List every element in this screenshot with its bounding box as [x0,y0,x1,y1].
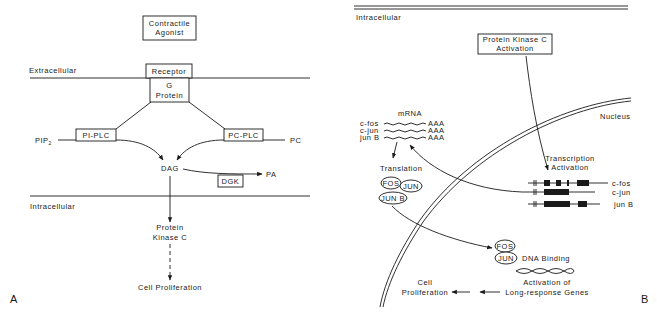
gene-jun-b: jun B [528,200,634,209]
transcription-line2: Activation [551,163,589,172]
transcription-line1: Transcription [545,154,595,163]
agonist-line2: Agonist [155,28,184,37]
mrna-title: mRNA [398,109,422,118]
g-protein-box: G Protein [150,78,189,102]
pkc-line2: Kinase C [153,233,188,242]
mrna-item: jun B AAA [359,133,445,142]
dag-to-pa-arrow [183,169,262,174]
mrna-wave [384,137,426,139]
svg-text:FOS: FOS [383,179,400,188]
agonist-line1: Contractile [149,19,190,28]
intracellular-label-b: Intracellular [356,13,401,22]
protein-jun: JUN [400,180,422,192]
g-protein-line2: Protein [156,91,183,100]
translation-label: Translation [380,164,422,173]
cell-line2: Proliferation [402,288,449,297]
dag-label: DAG [161,164,179,173]
svg-text:JUN B: JUN B [381,194,405,203]
pi-plc-label: PI-PLC [82,131,109,140]
activation-line2: Long-response Genes [505,288,589,297]
pc-label: PC [290,136,302,145]
svg-text:JUN: JUN [403,182,419,191]
cell-line1: Cell [418,278,433,287]
pc-plc-to-dag-arrow [177,140,224,160]
protein-to-dna-arrow [392,206,492,248]
g-to-pc-plc-line [189,102,225,129]
pc-plc-box: PC-PLC [224,129,263,141]
fos-jun-dimer: FOS JUN [495,240,517,264]
svg-text:JUN: JUN [498,254,514,263]
pi-plc-to-dag-arrow [116,140,163,160]
pa-label: PA [266,170,276,179]
panel-b-label: B [641,293,648,305]
contractile-agonist-box: Contractile Agonist [143,16,196,40]
protein-jun-b: JUN B [379,192,407,204]
pkc-to-transcription-arrow [526,56,548,170]
receptor-box: Receptor [146,64,192,78]
svg-text:AAA: AAA [428,133,445,142]
svg-text:c-jun: c-jun [612,188,631,197]
panel-a-label: A [10,293,18,305]
nucleus-label: Nucleus [600,112,631,121]
g-protein-line1: G [166,81,172,90]
pip2-label: PIP2 [35,136,52,146]
svg-text:c-fos: c-fos [612,179,631,188]
dna-binding-label: DNA Binding [522,254,570,263]
svg-text:jun B: jun B [613,200,634,209]
gene-c-fos: c-fos [528,179,631,188]
protein-fos: FOS [381,177,401,189]
dgk-label: DGK [222,177,240,186]
extracellular-label: Extracellular [29,66,77,75]
pkc-activation-line1: Protein Kinase C [483,35,547,44]
receptor-label: Receptor [152,67,186,76]
gene-to-mrna-arrow [410,145,522,192]
mrna-to-translation-arrow [393,142,397,158]
mrna-wave [384,130,426,132]
nuclear-envelope-outer [380,98,631,307]
panel-a: Contractile Agonist Extracellular Intrac… [10,16,310,305]
pkc-activation-line2: Activation [496,44,534,53]
dgk-box: DGK [218,175,243,187]
pkc-activation-box: Protein Kinase C Activation [478,34,552,54]
svg-text:jun B: jun B [359,133,380,142]
mrna-list: c-fos AAA c-jun AAA jun B AAA [359,119,445,142]
figure-canvas: Contractile Agonist Extracellular Intrac… [0,0,657,315]
panel-b: Intracellular Protein Kinase C Activatio… [354,6,648,307]
dna-helix-icon [516,269,574,274]
intracellular-label: Intracellular [30,202,75,211]
activation-line1: Activation of [523,278,571,287]
mrna-wave [384,123,426,125]
cell-proliferation-label: Cell Proliferation [138,283,202,292]
pc-plc-label: PC-PLC [228,131,259,140]
svg-text:FOS: FOS [497,242,514,251]
g-to-pi-plc-line [116,102,151,129]
pkc-line1: Protein [156,223,183,232]
gene-c-jun: c-jun [522,188,631,197]
pi-plc-box: PI-PLC [76,129,116,141]
